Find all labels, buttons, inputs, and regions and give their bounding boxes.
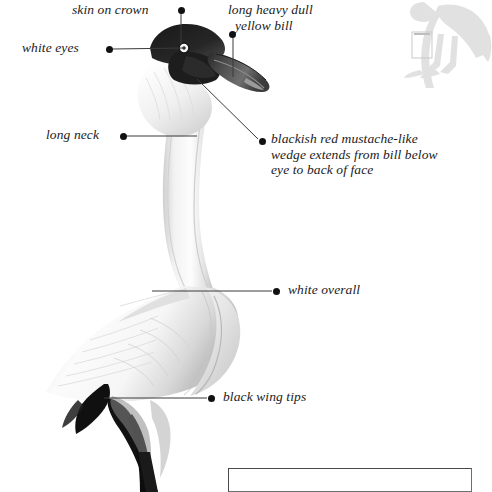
callout-label-line: blackish red mustache-like [271, 131, 438, 147]
callout-dot-black-wing-tips [208, 395, 215, 402]
callout-label-line: skin on crown [72, 2, 149, 18]
callout-label-white-overall: white overall [288, 282, 360, 298]
callout-label-line: white overall [288, 282, 360, 298]
illustration-plate: skin on crownlong heavy dull yellow bill… [0, 0, 492, 492]
callout-dot-white-eyes [106, 46, 113, 53]
callout-label-line: wedge extends from bill below [271, 147, 438, 163]
callout-dot-blackish-red-mustache [259, 138, 266, 145]
callout-label-long-neck: long neck [46, 127, 99, 143]
callout-label-white-eyes: white eyes [22, 40, 79, 56]
callout-dot-white-overall [273, 288, 280, 295]
callout-label-long-heavy-dull-yellow-bill: long heavy dull yellow bill [228, 2, 313, 33]
callout-dot-long-neck [120, 133, 127, 140]
callout-layer: skin on crownlong heavy dull yellow bill… [0, 0, 492, 492]
callout-label-line: long neck [46, 127, 99, 143]
callout-label-black-wing-tips: black wing tips [223, 389, 306, 405]
callout-label-skin-on-crown: skin on crown [72, 2, 149, 18]
callout-label-line: long heavy dull [228, 2, 313, 18]
callout-label-line: black wing tips [223, 389, 306, 405]
caption-frame-box [228, 468, 472, 492]
callout-label-blackish-red-mustache: blackish red mustache-likewedge extends … [271, 131, 438, 178]
callout-label-line: yellow bill [228, 18, 313, 34]
callout-dot-skin-on-crown [178, 7, 185, 14]
callout-label-line: eye to back of face [271, 162, 438, 178]
callout-label-line: white eyes [22, 40, 79, 56]
